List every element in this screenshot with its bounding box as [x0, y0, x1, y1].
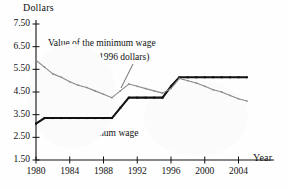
x-tick-label: 1980: [19, 166, 53, 176]
x-tick-label: 1996: [154, 166, 188, 176]
y-tick-label: 5.50: [0, 63, 30, 73]
y-tick-label: 2.50: [0, 131, 30, 141]
y-tick-label: 1.50: [0, 154, 30, 164]
y-tick-label: 3.50: [0, 109, 30, 119]
x-tick-label: 2000: [188, 166, 222, 176]
chart-plot-area: [0, 0, 288, 189]
y-tick-label: 6.50: [0, 41, 30, 51]
x-tick-label: 1992: [120, 166, 154, 176]
x-tick-label: 1984: [53, 166, 87, 176]
background-watermark: [28, 44, 248, 156]
y-tick-label: 7.50: [0, 18, 30, 28]
y-tick-label: 4.50: [0, 86, 30, 96]
x-tick-label: 1988: [87, 166, 121, 176]
chart-figure: Dollars Year Value of the minimum wage (…: [0, 0, 288, 189]
x-tick-label: 2004: [222, 166, 256, 176]
